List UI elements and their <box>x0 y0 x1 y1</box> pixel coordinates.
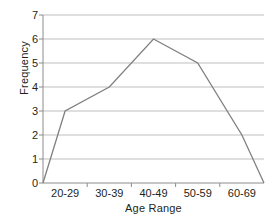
frequency-polygon-chart: Frequency 7 6 5 4 3 2 1 0 20-29 30-39 40… <box>0 0 266 223</box>
x-tick-label: 60-69 <box>220 186 264 202</box>
x-axis-tick-labels: 20-29 30-39 40-49 50-59 60-69 <box>43 186 264 202</box>
x-axis-title: Age Range <box>43 202 264 214</box>
x-tick-label: 50-59 <box>176 186 220 202</box>
x-tick-label: 30-39 <box>87 186 131 202</box>
x-tick-label: 40-49 <box>131 186 175 202</box>
y-axis-ticks <box>39 15 43 183</box>
gridlines <box>43 15 264 159</box>
x-tick-label: 20-29 <box>43 186 87 202</box>
